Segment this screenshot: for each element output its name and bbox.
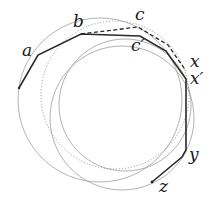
label-c-prime: c′ — [131, 35, 145, 55]
label-a: a — [22, 40, 32, 60]
vertex-start-dot — [18, 87, 20, 89]
diagram-canvas: a b c c′ x x′ y z — [0, 0, 215, 202]
circle-large-left — [18, 18, 182, 182]
label-y: y — [188, 144, 199, 164]
label-z: z — [158, 176, 169, 196]
label-b: b — [73, 11, 84, 31]
label-x-prime: x′ — [190, 68, 204, 88]
label-c: c — [135, 4, 145, 24]
vertex-z-dot — [151, 181, 154, 184]
